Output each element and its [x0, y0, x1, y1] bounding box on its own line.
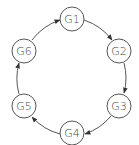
- node-label: G6: [16, 45, 32, 58]
- node-label: G5: [16, 100, 32, 113]
- cycle-diagram: G1 G2 G3 G4 G5 G6: [0, 0, 139, 145]
- node-g6: G6: [12, 39, 36, 63]
- node-label: G3: [111, 100, 127, 113]
- edge-g5-g6: [17, 63, 19, 94]
- node-g5: G5: [12, 94, 36, 118]
- node-g4: G4: [60, 121, 84, 145]
- node-label: G1: [64, 13, 80, 26]
- edge-g1-g2: [84, 20, 112, 40]
- node-label: G2: [111, 45, 127, 58]
- node-g3: G3: [107, 94, 131, 118]
- edge-g2-g3: [124, 63, 126, 93]
- edge-g6-g1: [32, 20, 60, 40]
- node-label: G4: [64, 127, 80, 140]
- node-g1: G1: [60, 7, 84, 31]
- node-g2: G2: [107, 39, 131, 63]
- edge-g3-g4: [85, 116, 111, 134]
- edge-g4-g5: [32, 117, 60, 134]
